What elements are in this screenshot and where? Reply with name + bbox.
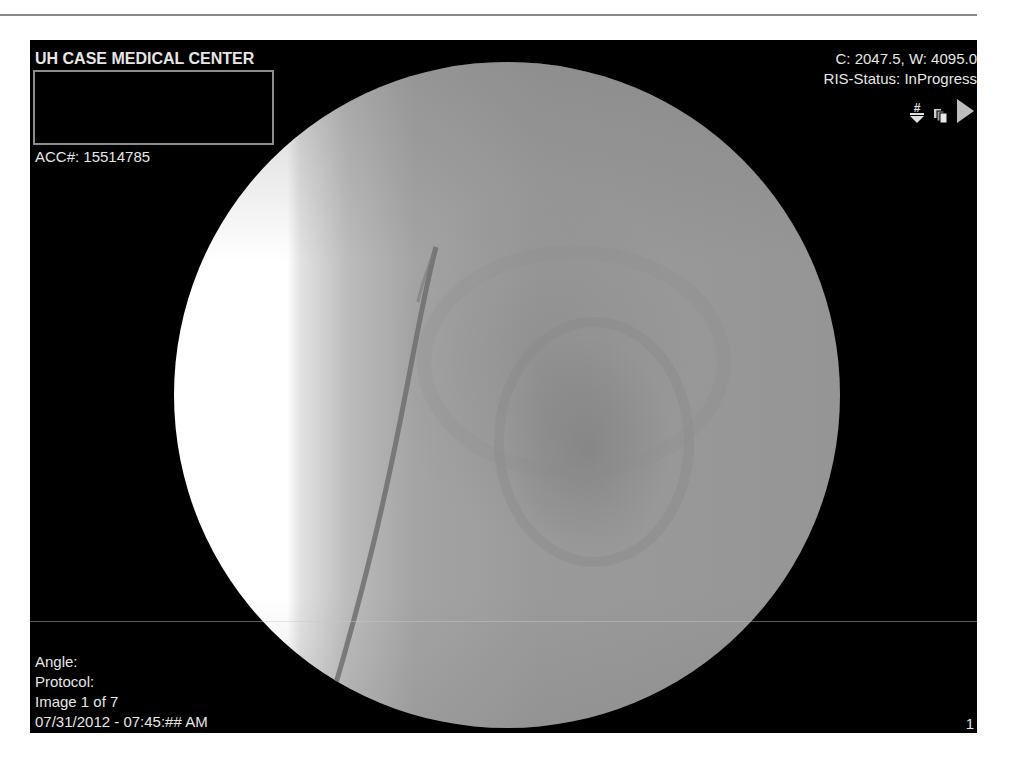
fluoroscopy-image[interactable] (174, 62, 840, 728)
acquisition-datetime: 07/31/2012 - 07:45:## AM (35, 713, 208, 733)
play-icon[interactable] (955, 98, 975, 124)
hash-down-arrow-icon[interactable]: # (907, 102, 927, 124)
angle-label: Angle: (35, 653, 208, 673)
viewer-toolbar: # (907, 98, 975, 124)
dicom-image-viewport[interactable]: UH CASE MEDICAL CENTER ACC#: 15514785 C:… (30, 40, 977, 733)
page-top-rule (0, 14, 977, 16)
scan-artifact-line (30, 621, 977, 622)
patient-name-redaction-box (33, 70, 274, 145)
accession-number: ACC#: 15514785 (35, 148, 150, 166)
catheter-wire (174, 62, 840, 728)
window-level: C: 2047.5, W: 4095.0 (824, 50, 977, 70)
institution-name: UH CASE MEDICAL CENTER (35, 50, 254, 68)
image-index: Image 1 of 7 (35, 693, 208, 713)
bottom-left-overlay: Angle: Protocol: Image 1 of 7 07/31/2012… (35, 653, 208, 733)
protocol-label: Protocol: (35, 673, 208, 693)
ris-status: RIS-Status: InProgress (824, 70, 977, 90)
frame-number: 1 (966, 715, 974, 733)
stacked-images-icon[interactable] (933, 108, 949, 124)
top-right-overlay: C: 2047.5, W: 4095.0 RIS-Status: InProgr… (824, 50, 977, 90)
